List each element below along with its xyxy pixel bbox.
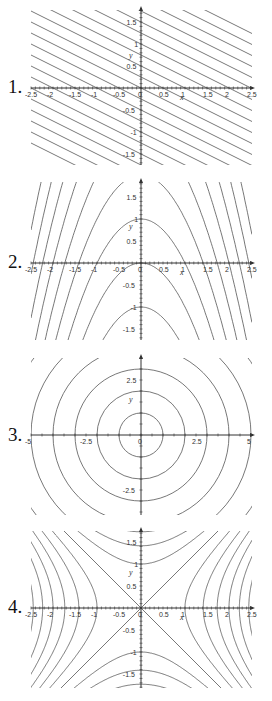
svg-text:0.5: 0.5 xyxy=(159,611,169,618)
svg-text:1: 1 xyxy=(134,216,138,223)
svg-text:-2.5: -2.5 xyxy=(25,611,37,618)
svg-text:1: 1 xyxy=(134,41,138,48)
svg-text:x: x xyxy=(179,93,184,102)
contour-plot-hyperbolas: -2.5-2-1.5-1-0.500.511.522.51.510.5-0.5-… xyxy=(0,525,272,701)
svg-text:-0.5: -0.5 xyxy=(123,107,135,114)
svg-text:-0.5: -0.5 xyxy=(113,266,125,273)
svg-text:2: 2 xyxy=(225,91,229,98)
svg-text:0: 0 xyxy=(138,91,142,98)
svg-text:1.5: 1.5 xyxy=(203,266,213,273)
svg-text:-1: -1 xyxy=(130,649,136,656)
svg-text:1.5: 1.5 xyxy=(127,19,137,26)
svg-text:-1: -1 xyxy=(130,304,136,311)
svg-text:1.5: 1.5 xyxy=(127,194,137,201)
svg-text:1.5: 1.5 xyxy=(203,91,213,98)
svg-text:2.5: 2.5 xyxy=(247,611,257,618)
svg-text:1.5: 1.5 xyxy=(127,539,137,546)
svg-text:-0.5: -0.5 xyxy=(123,627,135,634)
svg-text:0: 0 xyxy=(138,266,142,273)
svg-text:5: 5 xyxy=(247,438,251,445)
svg-text:-1: -1 xyxy=(91,91,97,98)
svg-text:2: 2 xyxy=(225,611,229,618)
svg-text:-1: -1 xyxy=(91,266,97,273)
svg-text:0.5: 0.5 xyxy=(127,63,137,70)
svg-text:-1.5: -1.5 xyxy=(69,611,81,618)
svg-text:-0.5: -0.5 xyxy=(113,611,125,618)
svg-text:0.5: 0.5 xyxy=(127,238,137,245)
svg-text:-2: -2 xyxy=(47,266,53,273)
svg-text:2.5: 2.5 xyxy=(247,91,257,98)
svg-text:2: 2 xyxy=(225,266,229,273)
svg-text:-5: -5 xyxy=(25,438,31,445)
plot-2: 2. -2.5-2-1.5-1-0.500.511.522.51.510.5-0… xyxy=(0,175,272,350)
svg-text:-2: -2 xyxy=(47,91,53,98)
svg-text:x: x xyxy=(179,613,184,622)
svg-text:-0.5: -0.5 xyxy=(113,91,125,98)
svg-text:-2: -2 xyxy=(47,611,53,618)
svg-text:-1.5: -1.5 xyxy=(123,151,135,158)
svg-text:-1.5: -1.5 xyxy=(69,91,81,98)
svg-text:0.5: 0.5 xyxy=(159,266,169,273)
svg-text:y: y xyxy=(128,395,133,404)
svg-text:-1: -1 xyxy=(91,611,97,618)
contour-plot-lines: -2.5-2-1.5-1-0.500.511.522.51.510.5-0.5-… xyxy=(0,0,272,175)
svg-text:0: 0 xyxy=(138,438,142,445)
svg-text:1: 1 xyxy=(134,561,138,568)
svg-text:-0.5: -0.5 xyxy=(123,282,135,289)
svg-text:-1: -1 xyxy=(130,129,136,136)
svg-text:0.5: 0.5 xyxy=(127,583,137,590)
svg-text:1.5: 1.5 xyxy=(203,611,213,618)
svg-text:2.5: 2.5 xyxy=(192,438,202,445)
svg-text:0.5: 0.5 xyxy=(159,91,169,98)
svg-text:2.5: 2.5 xyxy=(127,377,137,384)
svg-text:x: x xyxy=(179,268,184,277)
svg-text:-2.5: -2.5 xyxy=(25,91,37,98)
svg-text:y: y xyxy=(128,568,133,577)
svg-text:-1.5: -1.5 xyxy=(123,671,135,678)
svg-text:-2.5: -2.5 xyxy=(123,487,135,494)
contour-plot-parabolas: -2.5-2-1.5-1-0.500.511.522.51.510.5-0.5-… xyxy=(0,175,272,350)
plot-3: 3. -5-2.502.552.5-2.5y xyxy=(0,350,272,525)
svg-text:0: 0 xyxy=(138,611,142,618)
svg-text:-1.5: -1.5 xyxy=(123,326,135,333)
svg-text:y: y xyxy=(128,51,133,60)
svg-text:-1.5: -1.5 xyxy=(69,266,81,273)
svg-text:-2.5: -2.5 xyxy=(80,438,92,445)
svg-text:-2.5: -2.5 xyxy=(25,266,37,273)
contour-plot-circles: -5-2.502.552.5-2.5y xyxy=(0,350,272,525)
plot-4: 4. -2.5-2-1.5-1-0.500.511.522.51.510.5-0… xyxy=(0,525,272,701)
svg-text:2.5: 2.5 xyxy=(247,266,257,273)
plot-1: 1. -2.5-2-1.5-1-0.500.511.522.51.510.5-0… xyxy=(0,0,272,175)
svg-text:y: y xyxy=(128,222,133,231)
